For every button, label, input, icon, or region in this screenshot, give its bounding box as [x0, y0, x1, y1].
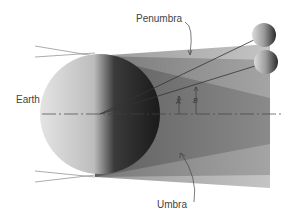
ray-line [35, 46, 95, 56]
penumbra-leader [185, 22, 191, 54]
ray-line [35, 175, 95, 182]
earth-label: Earth [16, 95, 40, 105]
moon-upper [252, 23, 276, 47]
angle-a-label: A [176, 98, 181, 105]
umbra-label: Umbra [157, 200, 187, 210]
moon-lower [254, 50, 278, 74]
penumbra-label: Penumbra [136, 14, 182, 24]
earth-shadow-diagram: Earth Penumbra Umbra A B [0, 0, 299, 218]
angle-b-label: B [193, 97, 198, 104]
